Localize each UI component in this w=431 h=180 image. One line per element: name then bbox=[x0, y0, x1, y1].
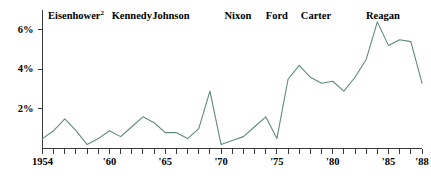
y-axis-tick-marks bbox=[38, 30, 43, 109]
era-label-eisenhower: Eisenhower2 bbox=[48, 9, 105, 22]
x-axis-tick-labels: 1954'60'65'70'75'80'85'88 bbox=[32, 156, 429, 167]
era-label-nixon: Nixon bbox=[224, 10, 251, 21]
era-label-superscript: 2 bbox=[100, 9, 104, 17]
y-tick-label: 4% bbox=[18, 63, 34, 74]
era-label-ford: Ford bbox=[266, 10, 288, 21]
x-tick-label: '80 bbox=[326, 156, 339, 167]
era-label-reagan: Reagan bbox=[366, 10, 400, 21]
y-axis-tick-labels: 2%4%6% bbox=[18, 24, 34, 114]
x-tick-label: '88 bbox=[415, 156, 428, 167]
x-tick-label: '65 bbox=[159, 156, 172, 167]
era-label-kennedy: Kennedy bbox=[112, 10, 153, 21]
y-tick-label: 2% bbox=[18, 103, 34, 114]
x-tick-label: '85 bbox=[382, 156, 395, 167]
x-tick-label: '60 bbox=[103, 156, 116, 167]
era-label-carter: Carter bbox=[301, 10, 332, 21]
y-tick-label: 6% bbox=[18, 24, 34, 35]
x-tick-label: '70 bbox=[214, 156, 227, 167]
x-axis-tick-marks bbox=[43, 149, 423, 154]
era-label-johnson: Johnson bbox=[152, 10, 190, 21]
chart-plot-area: Eisenhower2KennedyJohnsonNixonFordCarter… bbox=[0, 0, 431, 180]
x-tick-label: '75 bbox=[270, 156, 283, 167]
data-series-line bbox=[43, 22, 423, 145]
x-tick-label: 1954 bbox=[32, 156, 54, 167]
presidential-term-line-chart: Eisenhower2KennedyJohnsonNixonFordCarter… bbox=[0, 0, 431, 180]
era-labels-group: Eisenhower2KennedyJohnsonNixonFordCarter… bbox=[48, 9, 400, 22]
